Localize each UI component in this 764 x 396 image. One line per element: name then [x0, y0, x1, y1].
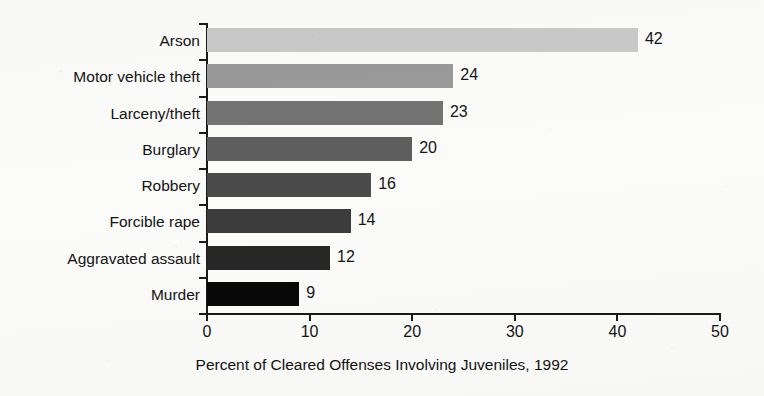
- category-label: Motor vehicle theft: [0, 59, 200, 95]
- x-axis-tick: [719, 313, 721, 321]
- bar-row: 20: [207, 132, 720, 168]
- bar-value-label: 9: [306, 281, 315, 305]
- x-axis-tick-label: 0: [203, 322, 212, 342]
- bar: [207, 282, 299, 306]
- y-axis-tick: [199, 96, 207, 98]
- bar-value-label: 24: [460, 63, 478, 87]
- x-axis-title: Percent of Cleared Offenses Involving Ju…: [0, 356, 764, 374]
- x-axis-tick: [514, 313, 516, 321]
- bar-row: 14: [207, 204, 720, 240]
- x-axis-tick: [309, 313, 311, 321]
- category-label: Larceny/theft: [0, 96, 200, 132]
- category-label: Arson: [0, 23, 200, 59]
- bar-row: 9: [207, 277, 720, 313]
- bar-row: 12: [207, 241, 720, 277]
- category-label: Robbery: [0, 168, 200, 204]
- x-axis-tick-label: 30: [506, 322, 524, 342]
- bar-value-label: 14: [358, 208, 376, 232]
- x-axis-tick: [411, 313, 413, 321]
- category-label: Aggravated assault: [0, 241, 200, 277]
- y-axis-tick: [199, 241, 207, 243]
- bar: [207, 246, 330, 270]
- bar: [207, 64, 453, 88]
- y-axis-tick: [199, 168, 207, 170]
- x-axis-tick-label: 40: [608, 322, 626, 342]
- y-axis-tick: [199, 23, 207, 25]
- x-axis-tick: [206, 313, 208, 321]
- bar-value-label: 42: [645, 27, 663, 51]
- bar-value-label: 16: [378, 172, 396, 196]
- y-axis-tick: [199, 59, 207, 61]
- y-axis-tick: [199, 204, 207, 206]
- bar-row: 42: [207, 23, 720, 59]
- x-axis-tick: [616, 313, 618, 321]
- x-axis-line: [206, 313, 721, 315]
- bar-row: 16: [207, 168, 720, 204]
- bar: [207, 173, 371, 197]
- bar: [207, 209, 351, 233]
- plot-area: 422423201614129: [207, 23, 720, 313]
- x-axis-tick-label: 10: [301, 322, 319, 342]
- bar: [207, 137, 412, 161]
- bar-row: 24: [207, 59, 720, 95]
- bar-value-label: 20: [419, 136, 437, 160]
- bar-chart-figure: ArsonMotor vehicle theftLarceny/theftBur…: [0, 0, 764, 396]
- category-label: Forcible rape: [0, 204, 200, 240]
- bar-row: 23: [207, 96, 720, 132]
- category-label: Burglary: [0, 132, 200, 168]
- x-axis-tick-label: 50: [711, 322, 729, 342]
- bar-value-label: 23: [450, 100, 468, 124]
- category-label: Murder: [0, 277, 200, 313]
- bar: [207, 101, 443, 125]
- y-axis-tick: [199, 132, 207, 134]
- y-axis-tick: [199, 277, 207, 279]
- bar-value-label: 12: [337, 245, 355, 269]
- bar: [207, 28, 638, 52]
- x-axis-tick-label: 20: [403, 322, 421, 342]
- category-axis-labels: ArsonMotor vehicle theftLarceny/theftBur…: [0, 23, 200, 313]
